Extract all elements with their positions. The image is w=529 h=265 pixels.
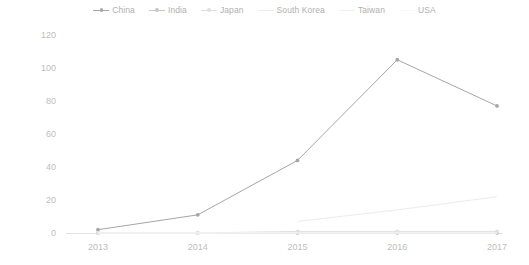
- x-axis-tick-label: 2013: [88, 243, 108, 252]
- legend-item-japan[interactable]: Japan: [201, 6, 244, 15]
- y-axis: 020406080100120: [12, 0, 56, 265]
- legend-label: South Korea: [277, 6, 325, 15]
- legend-item-taiwan[interactable]: Taiwan: [339, 6, 385, 15]
- chart-legend: ChinaIndiaJapanSouth KoreaTaiwanUSA: [0, 6, 529, 15]
- legend-item-china[interactable]: China: [93, 6, 135, 15]
- data-point-marker: [196, 213, 200, 217]
- legend-swatch-icon: [399, 6, 415, 14]
- legend-item-usa[interactable]: USA: [399, 6, 436, 15]
- legend-label: Taiwan: [358, 6, 385, 15]
- y-axis-tick-label: 120: [16, 31, 56, 40]
- legend-swatch-icon: [201, 6, 217, 14]
- legend-item-south-korea[interactable]: South Korea: [258, 6, 325, 15]
- x-axis-tick-label: 2015: [287, 243, 307, 252]
- data-point-marker: [495, 104, 499, 108]
- legend-swatch-icon: [339, 6, 355, 14]
- legend-label: Japan: [220, 6, 244, 15]
- line-chart: ChinaIndiaJapanSouth KoreaTaiwanUSA 0204…: [0, 0, 529, 265]
- legend-label: USA: [418, 6, 436, 15]
- y-axis-tick-label: 100: [16, 64, 56, 73]
- x-axis-tick-label: 2016: [387, 243, 407, 252]
- data-point-marker: [395, 58, 399, 62]
- y-axis-tick-label: 0: [16, 229, 56, 238]
- x-axis-tick-label: 2017: [487, 243, 507, 252]
- x-axis-tick-label: 2014: [188, 243, 208, 252]
- legend-swatch-icon: [149, 6, 165, 14]
- legend-swatch-icon: [258, 6, 274, 14]
- plot-area: [66, 35, 501, 233]
- y-axis-tick-label: 60: [16, 130, 56, 139]
- data-point-marker: [296, 159, 300, 163]
- legend-label: China: [112, 6, 135, 15]
- y-axis-tick-label: 20: [16, 196, 56, 205]
- series-layer: [66, 35, 501, 233]
- data-point-marker: [96, 228, 100, 232]
- legend-label: India: [168, 6, 187, 15]
- y-axis-tick-label: 40: [16, 163, 56, 172]
- series-line-south-korea: [298, 197, 498, 222]
- legend-item-india[interactable]: India: [149, 6, 187, 15]
- legend-swatch-icon: [93, 6, 109, 14]
- y-axis-tick-label: 80: [16, 97, 56, 106]
